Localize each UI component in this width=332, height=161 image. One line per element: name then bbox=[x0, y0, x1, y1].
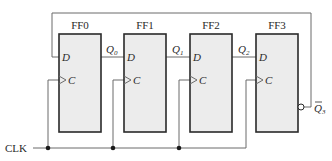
ff1-label: FF1 bbox=[136, 19, 154, 31]
flip-flop-ff0 bbox=[59, 34, 101, 132]
q0-label: Q 0 bbox=[106, 43, 118, 57]
q2-label: Q 2 bbox=[238, 43, 250, 57]
flip-flop-ff2 bbox=[190, 34, 232, 132]
svg-text:Q: Q bbox=[238, 43, 246, 55]
flip-flop-ff3 bbox=[256, 34, 298, 132]
clock-branch-ff2 bbox=[179, 80, 190, 148]
svg-text:0: 0 bbox=[114, 49, 118, 57]
flip-flop-ff1 bbox=[124, 34, 166, 132]
clock-branch-ff1 bbox=[113, 80, 124, 148]
ff2-c-label: C bbox=[199, 74, 207, 86]
ff2-d-label: D bbox=[192, 51, 201, 63]
svg-text:2: 2 bbox=[246, 49, 250, 57]
ff2-label: FF2 bbox=[202, 19, 220, 31]
junction-dot-ff2 bbox=[177, 146, 182, 151]
clock-branch-ff3 bbox=[246, 80, 256, 148]
ff0-d-label: D bbox=[61, 51, 70, 63]
junction-dot-ff1 bbox=[111, 146, 116, 151]
ff0-label: FF0 bbox=[71, 19, 89, 31]
ff0-c-label: C bbox=[68, 74, 76, 86]
q3-bar-label: Q 3 bbox=[314, 102, 326, 116]
ff3-c-label: C bbox=[265, 74, 273, 86]
clk-label: CLK bbox=[5, 142, 27, 154]
svg-text:3: 3 bbox=[321, 108, 326, 116]
ff1-c-label: C bbox=[133, 74, 141, 86]
junction-dot-ff0 bbox=[46, 146, 51, 151]
svg-text:1: 1 bbox=[180, 49, 184, 57]
q1-label: Q 1 bbox=[172, 43, 184, 57]
ff3-d-label: D bbox=[258, 51, 267, 63]
svg-text:Q: Q bbox=[172, 43, 180, 55]
clock-branch-ff0 bbox=[48, 80, 59, 148]
johnson-counter-diagram: FF0 FF1 FF2 FF3 D D D D C C C C Q 0 Q 1 … bbox=[0, 0, 332, 161]
ff1-d-label: D bbox=[126, 51, 135, 63]
ff3-label: FF3 bbox=[268, 19, 286, 31]
inversion-bubble-icon bbox=[298, 104, 304, 110]
svg-text:Q: Q bbox=[106, 43, 114, 55]
svg-text:Q: Q bbox=[314, 102, 322, 114]
